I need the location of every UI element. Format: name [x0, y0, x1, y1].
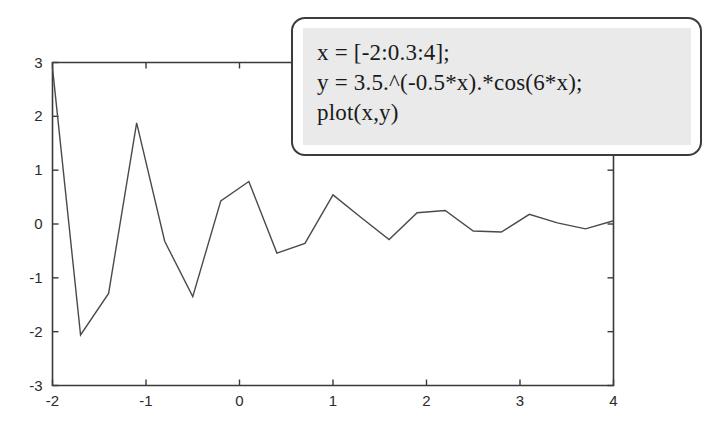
y-axis-tick-labels: -3-2-10123	[29, 54, 42, 394]
y-tick-label: 2	[34, 107, 42, 124]
code-line-2: y = 3.5.^(-0.5*x).*cos(6*x);	[317, 68, 679, 98]
code-callout: x = [-2:0.3:4]; y = 3.5.^(-0.5*x).*cos(6…	[291, 17, 702, 156]
y-tick-label: 0	[34, 215, 42, 232]
y-tick-label: -3	[29, 377, 42, 394]
y-tick-label: 1	[34, 161, 42, 178]
y-tick-label: 3	[34, 54, 42, 71]
x-tick-label: 2	[422, 392, 430, 409]
x-tick-label: 3	[516, 392, 524, 409]
x-tick-label: 0	[235, 392, 243, 409]
x-tick-label: -1	[139, 392, 152, 409]
code-line-3: plot(x,y)	[317, 98, 679, 128]
x-axis-tick-labels: -2-101234	[46, 392, 618, 409]
code-line-1: x = [-2:0.3:4];	[317, 38, 679, 68]
y-tick-label: -2	[29, 323, 42, 340]
matlab-figure: -2-101234 -3-2-10123 x = [-2:0.3:4]; y =…	[0, 0, 717, 441]
code-callout-body: x = [-2:0.3:4]; y = 3.5.^(-0.5*x).*cos(6…	[303, 28, 691, 145]
x-tick-label: 1	[329, 392, 337, 409]
x-tick-label: -2	[46, 392, 59, 409]
x-tick-label: 4	[609, 392, 617, 409]
y-tick-label: -1	[29, 269, 42, 286]
